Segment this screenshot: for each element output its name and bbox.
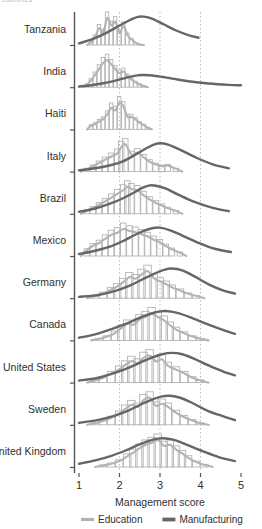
manufacturing-density-line xyxy=(79,396,235,423)
country-label: United Kingdom xyxy=(0,445,66,457)
manufacturing-density-line xyxy=(79,185,229,212)
ridge-row: United States xyxy=(3,350,241,384)
country-label: Haiti xyxy=(45,107,66,119)
country-label: Canada xyxy=(29,318,66,330)
country-label: Sweden xyxy=(28,403,66,415)
legend-label-education: Education xyxy=(98,514,142,525)
x-tick-label-3: 3 xyxy=(157,479,163,491)
ridge-row: Italy xyxy=(47,139,241,173)
manufacturing-density-line xyxy=(79,438,235,464)
ridge-row: Tanzania xyxy=(24,12,241,46)
x-tick-label-1: 1 xyxy=(76,479,82,491)
country-label: Germany xyxy=(23,276,67,288)
education-histogram xyxy=(84,223,183,256)
country-label: India xyxy=(43,65,66,77)
legend-label-manufacturing: Manufacturing xyxy=(179,514,242,525)
x-tick-label-4: 4 xyxy=(197,479,203,491)
ridge-row: Brazil xyxy=(40,181,241,215)
x-tick-label-5: 5 xyxy=(238,479,244,491)
x-axis-title: Management score xyxy=(115,496,205,508)
chart-svg: TanzaniaIndiaHaitiItalyBrazilMexicoGerma… xyxy=(0,0,262,529)
x-axis: 12345 xyxy=(76,473,244,491)
y-axis xyxy=(70,12,75,473)
ridge-row: Mexico xyxy=(33,223,241,257)
education-density-line xyxy=(81,229,186,256)
education-density-line xyxy=(87,18,144,45)
x-tick-label-2: 2 xyxy=(116,479,122,491)
ridge-row: Canada xyxy=(29,307,241,341)
ridge-row: United Kingdom xyxy=(0,434,241,468)
ridgeline-chart: countries TanzaniaIndiaHaitiItalyBrazilM… xyxy=(0,0,262,529)
manufacturing-density-line xyxy=(79,311,235,338)
ridge-row: India xyxy=(43,54,241,87)
cut-off-header: countries xyxy=(2,0,32,3)
country-label: Italy xyxy=(47,150,67,162)
country-label: United States xyxy=(3,361,66,373)
manufacturing-density-line xyxy=(79,143,229,170)
country-label: Brazil xyxy=(40,192,66,204)
ridge-row: Sweden xyxy=(28,392,241,426)
ridge-row: Germany xyxy=(23,265,241,299)
legend: EducationManufacturing xyxy=(81,514,243,525)
country-label: Tanzania xyxy=(24,23,66,35)
country-label: Mexico xyxy=(33,234,66,246)
